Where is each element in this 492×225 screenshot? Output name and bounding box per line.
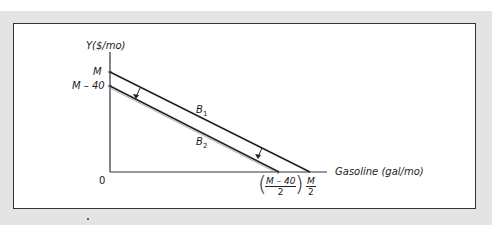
x-tick-label-m-minus-40-over-2: M – 40 2 [265, 176, 296, 197]
budget-line-b1 [110, 72, 310, 172]
y-tick-label-m: M [93, 66, 102, 77]
right-paren: ) [295, 173, 304, 195]
y-axis-label: Y($/mo) [86, 40, 126, 51]
shift-arrow-icon [255, 148, 262, 159]
b2-label: B2 [196, 136, 207, 150]
x-axis-label: Gasoline (gal/mo) [335, 166, 424, 177]
y-tick-label-m-minus-40: M – 40 [72, 80, 105, 91]
budget-constraint-plot [0, 0, 492, 225]
stray-dot [87, 218, 89, 220]
b1-label: B1 [196, 104, 207, 118]
budget-line-b2 [110, 86, 279, 172]
x-tick-label-m-over-2: M 2 [306, 176, 316, 197]
origin-label: 0 [99, 175, 105, 186]
